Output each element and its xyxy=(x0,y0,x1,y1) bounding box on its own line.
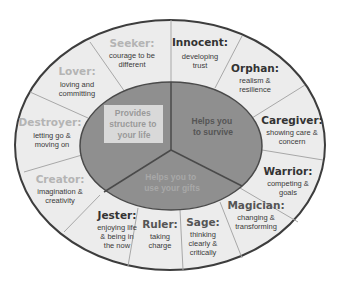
svg-text:thinkingclearly &critically: thinkingclearly &critically xyxy=(189,230,218,257)
archetype-lover: Lover: loving andcommitting xyxy=(58,65,95,98)
core-gifts-text: Helps you to use your gifts xyxy=(144,172,200,193)
svg-text:loving andcommitting: loving andcommitting xyxy=(59,80,95,98)
svg-text:Ruler:: Ruler: xyxy=(142,218,178,230)
archetype-sage: Sage: thinkingclearly &critically xyxy=(186,216,219,257)
svg-text:Orphan:: Orphan: xyxy=(231,62,279,74)
svg-text:Innocent:: Innocent: xyxy=(172,36,228,48)
svg-text:Jester:: Jester: xyxy=(97,209,137,221)
svg-text:Magician:: Magician: xyxy=(227,199,284,211)
svg-text:Lover:: Lover: xyxy=(58,65,95,77)
svg-text:changing &transforming: changing &transforming xyxy=(235,213,277,231)
archetype-wheel-diagram: Provides structure to your life Helps yo… xyxy=(0,0,341,284)
svg-text:Seeker:: Seeker: xyxy=(109,37,154,49)
svg-text:Caregiver:: Caregiver: xyxy=(261,114,323,126)
svg-text:Warrior:: Warrior: xyxy=(264,165,313,177)
svg-text:Sage:: Sage: xyxy=(186,216,219,228)
core-survive-text: Helps you to survive xyxy=(192,116,235,137)
svg-text:Creator:: Creator: xyxy=(36,173,85,185)
svg-text:takingcharge: takingcharge xyxy=(149,232,172,250)
svg-text:Destroyer:: Destroyer: xyxy=(19,116,82,128)
svg-text:letting go &moving on: letting go &moving on xyxy=(33,131,71,149)
svg-text:realism &resilience: realism &resilience xyxy=(239,76,271,94)
